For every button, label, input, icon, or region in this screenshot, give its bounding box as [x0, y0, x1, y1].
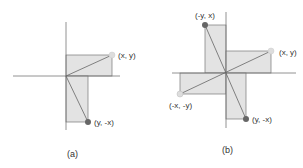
point-xy	[109, 52, 115, 58]
label-y-negx-b: (y, -x)	[252, 115, 272, 124]
caption-a: (a)	[67, 149, 78, 159]
caption-b: (b)	[222, 145, 233, 155]
point-y-negx	[85, 119, 91, 125]
figure-a: (x, y) (y, -x) (a)	[13, 22, 136, 159]
label-y-negx: (y, -x)	[94, 118, 114, 127]
point-negy-x	[202, 22, 208, 28]
label-xy-b: (x, y)	[279, 48, 297, 57]
label-negx-negy: (-x, -y)	[169, 101, 192, 110]
figure-b: (x, y) (-y, x) (-x, -y) (y, -x) (b)	[169, 11, 297, 155]
point-negx-negy	[177, 91, 183, 97]
rotation-diagram: (x, y) (y, -x) (a) (x, y) (-y, x) (-x, -…	[0, 0, 303, 168]
point-y-negx-b	[243, 116, 249, 122]
point-xy-b	[268, 48, 274, 54]
label-negy-x: (-y, x)	[195, 11, 215, 20]
label-xy: (x, y)	[118, 51, 136, 60]
